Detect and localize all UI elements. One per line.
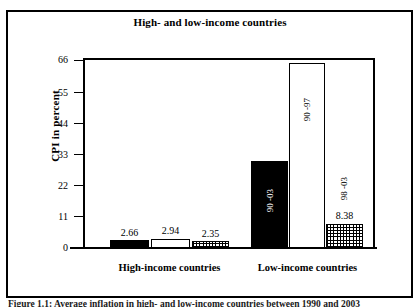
bar-high-income-98-03[interactable] xyxy=(192,241,229,248)
bar-period-low-income-90-97: 90 -97 xyxy=(303,89,312,131)
y-tick-label-22: 22 xyxy=(28,181,68,191)
y-tick-label-66: 66 xyxy=(28,55,68,65)
bar-value-high-income-90-97: 2.94 xyxy=(148,226,193,236)
y-tick-mark-55 xyxy=(74,92,83,93)
chart-title: High- and low-income countries xyxy=(0,16,420,28)
category-label-low-income: Low-income countries xyxy=(240,262,375,273)
y-tick-mark-33 xyxy=(74,154,83,155)
bar-high-income-90-97[interactable] xyxy=(151,239,190,248)
y-tick-label-11: 11 xyxy=(28,212,68,222)
y-tick-label-0: 0 xyxy=(28,243,68,253)
bar-value-low-income-98-03: 8.38 xyxy=(322,211,367,221)
y-tick-mark-66 xyxy=(74,60,83,61)
bar-period-low-income-98-03: 98 -03 xyxy=(340,168,349,210)
bar-value-high-income-90-03: 2.66 xyxy=(107,228,152,238)
bar-high-income-90-03[interactable] xyxy=(110,240,149,248)
y-tick-label-44: 44 xyxy=(28,119,68,129)
y-tick-label-33: 33 xyxy=(28,150,68,160)
figure-root: High- and low-income countries CPI in pe… xyxy=(0,0,420,307)
category-label-high-income: High-income countries xyxy=(102,262,237,273)
bar-low-income-98-03[interactable] xyxy=(326,224,363,248)
y-tick-label-55: 55 xyxy=(28,88,68,98)
bar-period-low-income-90-03: 90 -03 xyxy=(266,180,275,222)
y-tick-mark-11 xyxy=(74,216,83,217)
bar-value-high-income-98-03: 2.35 xyxy=(188,229,233,239)
figure-caption: Figure 1.1: Average inflation in high- a… xyxy=(8,299,420,307)
y-tick-mark-22 xyxy=(74,185,83,186)
y-tick-mark-44 xyxy=(74,123,83,124)
